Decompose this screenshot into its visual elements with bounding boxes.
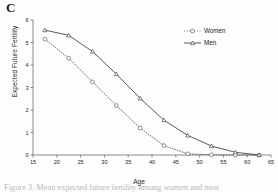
data-point-marker: [138, 126, 142, 130]
x-tick-label: 35: [125, 159, 131, 165]
data-point-marker: [191, 29, 195, 33]
series-women: [43, 37, 261, 157]
x-tick-label: 45: [173, 159, 179, 165]
data-point-marker: [114, 104, 118, 108]
data-point-marker: [43, 28, 47, 32]
y-tick-label: 1: [25, 130, 28, 136]
legend-label-women: Women: [204, 27, 226, 34]
series-line: [45, 39, 259, 155]
x-tick-label: 60: [244, 159, 250, 165]
x-tick-label: 50: [196, 159, 202, 165]
x-tick-label: 15: [30, 159, 36, 165]
legend-label-men: Men: [204, 39, 217, 46]
y-tick-label: 6: [25, 17, 28, 23]
x-tick-label: 25: [77, 159, 83, 165]
x-tick-label: 20: [54, 159, 60, 165]
data-point-marker: [186, 133, 190, 137]
y-tick-label: 0: [25, 152, 28, 158]
data-point-marker: [210, 153, 214, 157]
x-tick-label: 55: [220, 159, 226, 165]
x-tick-label: 65: [268, 159, 274, 165]
x-tick-label: 40: [149, 159, 155, 165]
data-point-marker: [91, 80, 95, 84]
y-tick-label: 4: [25, 62, 28, 68]
data-point-marker: [186, 152, 190, 156]
data-point-marker: [67, 56, 71, 60]
chart-legend: WomenMen: [184, 27, 226, 46]
line-chart-svg: 01234561520253035404550556065WomenMen: [0, 14, 278, 174]
y-tick-label: 3: [25, 85, 28, 91]
y-tick-label: 2: [25, 107, 28, 113]
series-line: [45, 30, 259, 155]
y-tick-label: 5: [25, 40, 28, 46]
figure-caption: Figure 3. Mean expected future fertility…: [4, 183, 276, 192]
data-point-marker: [43, 37, 47, 41]
data-point-marker: [162, 144, 166, 148]
series-men: [43, 28, 261, 156]
figure-panel-c: C Expected Future Fertility 012345615202…: [0, 0, 278, 192]
x-tick-label: 30: [101, 159, 107, 165]
chart-plot-area: Expected Future Fertility 01234561520253…: [0, 14, 278, 166]
